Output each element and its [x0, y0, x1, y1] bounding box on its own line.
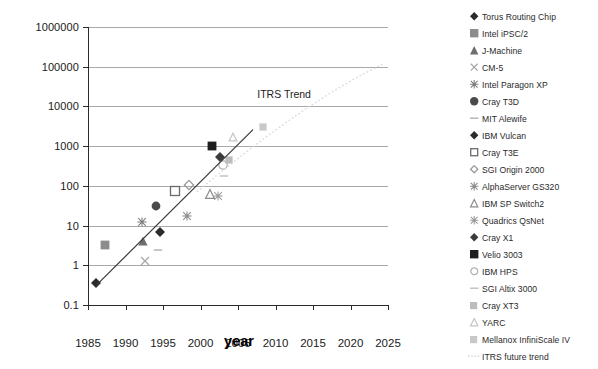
legend-label: Intel iPSC/2 [482, 29, 528, 39]
legend-item[interactable]: Cray X1 [466, 229, 598, 246]
legend-marker-icon [466, 263, 482, 280]
legend-marker-icon [466, 42, 482, 59]
legend-item[interactable]: Cray T3D [466, 93, 598, 110]
legend-item[interactable]: CM-5 [466, 59, 598, 76]
legend-marker-icon [466, 280, 482, 297]
legend-item[interactable]: MIT Alewife [466, 110, 598, 127]
plot-area: 10000001000001000010001001010.1198519901… [88, 27, 388, 305]
legend: Torus Routing ChipIntel iPSC/2J-MachineC… [466, 8, 598, 365]
legend-item[interactable]: YARC [466, 314, 598, 331]
legend-label: YARC [482, 318, 505, 328]
legend-item[interactable]: Velio 3003 [466, 246, 598, 263]
legend-label: IBM HPS [482, 267, 518, 277]
y-tick-label: 100000 [42, 61, 79, 73]
y-tick-label: 0.1 [63, 299, 79, 311]
legend-marker-icon [466, 331, 482, 348]
legend-label: CM-5 [482, 63, 503, 73]
legend-label: AlphaServer GS320 [482, 182, 559, 192]
legend-item[interactable]: Torus Routing Chip [466, 8, 598, 25]
legend-marker-icon [466, 76, 482, 93]
chart-figure: bandwidth per router node (Gb/s) 1000000… [0, 0, 598, 369]
y-tick-label: 10000 [48, 100, 79, 112]
y-tick-label: 1 [73, 259, 79, 271]
x-axis-title-text: year [224, 333, 254, 349]
legend-item[interactable]: SGI Origin 2000 [466, 161, 598, 178]
legend-label: J-Machine [482, 46, 522, 56]
legend-marker-icon [466, 348, 482, 365]
legend-marker-icon [466, 195, 482, 212]
legend-marker-icon [466, 59, 482, 76]
legend-item[interactable]: Cray T3E [466, 144, 598, 161]
itrs-trend-annotation: ITRS Trend [257, 88, 311, 100]
x-tick-mark [276, 305, 277, 310]
trend-line [88, 27, 388, 305]
legend-label: Torus Routing Chip [482, 12, 556, 22]
x-tick-mark [313, 305, 314, 310]
legend-label: Quadrics QsNet [482, 216, 544, 226]
legend-marker-icon [466, 314, 482, 331]
legend-marker-icon [466, 229, 482, 246]
x-tick-mark [88, 305, 89, 310]
legend-marker-icon [466, 25, 482, 42]
y-tick-label: 1000000 [35, 21, 79, 33]
legend-item[interactable]: Quadrics QsNet [466, 212, 598, 229]
legend-item[interactable]: ITRS future trend [466, 348, 598, 365]
x-tick-mark [388, 305, 389, 310]
legend-label: SGI Origin 2000 [482, 165, 544, 175]
x-tick-mark [351, 305, 352, 310]
x-tick-mark [163, 305, 164, 310]
legend-label: Mellanox InfiniScale IV [482, 335, 570, 345]
legend-marker-icon [466, 144, 482, 161]
legend-item[interactable]: AlphaServer GS320 [466, 178, 598, 195]
legend-label: Cray T3D [482, 97, 519, 107]
x-tick-mark [126, 305, 127, 310]
legend-marker-icon [466, 127, 482, 144]
legend-label: Cray XT3 [482, 301, 519, 311]
legend-item[interactable]: Cray XT3 [466, 297, 598, 314]
legend-label: Intel Paragon XP [482, 80, 548, 90]
legend-label: MIT Alewife [482, 114, 527, 124]
legend-marker-icon [466, 161, 482, 178]
x-tick-mark [238, 305, 239, 310]
y-tick-label: 10 [67, 220, 79, 232]
legend-label: ITRS future trend [482, 352, 549, 362]
legend-item[interactable]: Intel Paragon XP [466, 76, 598, 93]
legend-item[interactable]: SGI Altix 3000 [466, 280, 598, 297]
x-tick-mark [201, 305, 202, 310]
legend-marker-icon [466, 93, 482, 110]
y-tick-label: 100 [60, 180, 79, 192]
legend-item[interactable]: Intel iPSC/2 [466, 25, 598, 42]
legend-label: IBM Vulcan [482, 131, 526, 141]
legend-item[interactable]: Mellanox InfiniScale IV [466, 331, 598, 348]
legend-marker-icon [466, 178, 482, 195]
legend-item[interactable]: IBM Vulcan [466, 127, 598, 144]
legend-marker-icon [466, 297, 482, 314]
legend-marker-icon [466, 212, 482, 229]
legend-marker-icon [466, 246, 482, 263]
legend-label: IBM SP Switch2 [482, 199, 544, 209]
legend-label: SGI Altix 3000 [482, 284, 537, 294]
y-tick-label: 1000 [54, 140, 79, 152]
legend-label: Velio 3003 [482, 250, 523, 260]
legend-item[interactable]: J-Machine [466, 42, 598, 59]
legend-label: Cray X1 [482, 233, 513, 243]
legend-marker-icon [466, 8, 482, 25]
legend-label: Cray T3E [482, 148, 519, 158]
legend-item[interactable]: IBM HPS [466, 263, 598, 280]
legend-item[interactable]: IBM SP Switch2 [466, 195, 598, 212]
legend-marker-icon [466, 110, 482, 127]
